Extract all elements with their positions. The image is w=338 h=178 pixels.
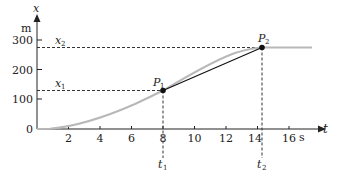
x-axis-arrow-icon [34,14,41,22]
t-tick-10: 10 [188,132,202,145]
y-tick-100: 100 [12,93,33,106]
t1-annotation: t 1 [158,158,167,172]
position-curve [37,48,312,130]
t-unit-label: s [299,131,305,144]
t-tick-16: 16 [282,132,296,145]
svg-text:2: 2 [265,38,269,46]
t-tick-8: 8 [160,132,167,145]
y-tick-300: 300 [12,34,33,47]
svg-text:1: 1 [163,164,167,172]
p2-label: P 2 [257,32,269,46]
secant-line [163,48,262,91]
t-tick-4: 4 [97,132,104,145]
y-tick-200: 200 [12,64,33,77]
svg-text:1: 1 [160,82,164,90]
point-p2 [259,45,265,51]
t-axis-label: t [323,122,328,136]
svg-text:2: 2 [262,164,266,172]
position-time-chart: x m t s 300 200 100 0 2 4 6 8 10 12 14 1… [0,0,338,178]
t-tick-12: 12 [219,132,233,145]
x-axis-label: x [33,2,40,15]
y-tick-0: 0 [26,123,33,136]
svg-text:2: 2 [61,40,65,48]
p1-label: P 1 [152,76,164,90]
x1-annotation: x 1 [55,77,65,91]
x2-annotation: x 2 [55,34,65,48]
t-tick-14: 14 [248,132,262,145]
svg-text:1: 1 [61,83,65,91]
t2-annotation: t 2 [257,158,266,172]
t-tick-2: 2 [65,132,72,145]
t-tick-6: 6 [128,132,135,145]
chart-svg: x m t s 300 200 100 0 2 4 6 8 10 12 14 1… [0,0,338,178]
